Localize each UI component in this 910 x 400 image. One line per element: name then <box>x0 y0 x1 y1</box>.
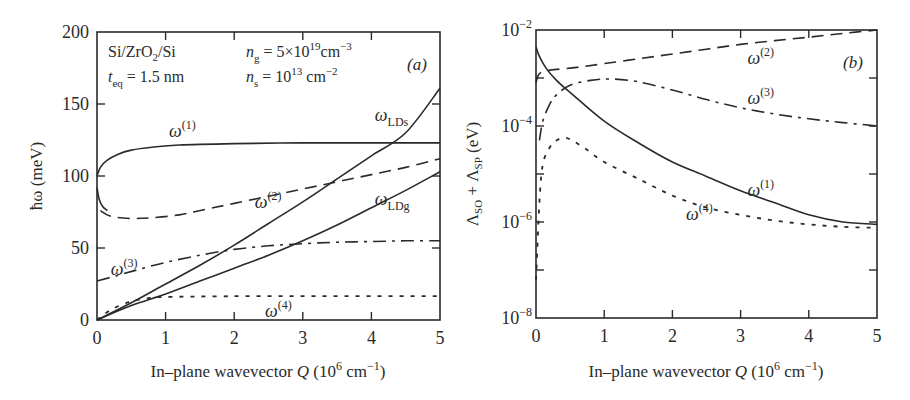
x-tick-label: 0 <box>93 328 102 348</box>
panel-a-ns: ns = 1013 cm−2 <box>246 65 338 89</box>
y-tick-label: 10−8 <box>501 305 532 328</box>
panel-b-tick-labels: 01234510−810−610−410−2 <box>501 17 881 346</box>
curve-label: ω(3) <box>747 85 774 108</box>
curve-label: ω(4) <box>265 298 292 321</box>
panel-b-label: (b) <box>843 53 863 72</box>
x-tick-label: 0 <box>532 326 541 346</box>
x-tick-label: 3 <box>736 326 745 346</box>
curve-label: ωLDg <box>375 189 410 213</box>
curve-label: ωLDs <box>375 105 409 129</box>
panel-b-curves <box>536 30 877 280</box>
curve--1- <box>536 47 877 225</box>
x-tick-label: 5 <box>436 328 445 348</box>
curve--2- <box>536 30 877 83</box>
panel-b-frame <box>536 30 877 318</box>
x-tick-label: 4 <box>804 326 813 346</box>
curve-label: ω(1) <box>169 118 196 141</box>
panel-b-x-axis-label: In–plane wavevector Q (106 cm−1) <box>588 359 823 381</box>
curve--1-lower-branch <box>97 188 107 211</box>
panel-a-teq: teq = 1.5 nm <box>108 68 185 89</box>
y-tick-label: 0 <box>80 310 89 330</box>
panel-b-plot: 01234510−810−610−410−2 ω(2)ω(3)ω(1)ω(4) … <box>463 17 882 381</box>
curve-label: ω(4) <box>686 201 713 224</box>
y-tick-label: 100 <box>62 166 89 186</box>
panel-a-ng: ng = 5×1019cm−3 <box>246 40 352 64</box>
y-tick-label: 10−6 <box>501 209 532 232</box>
x-tick-label: 1 <box>600 326 609 346</box>
x-tick-label: 2 <box>668 326 677 346</box>
x-tick-label: 3 <box>298 328 307 348</box>
curve-label: ω(2) <box>747 45 774 68</box>
y-tick-label: 10−4 <box>501 113 532 136</box>
x-tick-label: 1 <box>161 328 170 348</box>
panel-a-label: (a) <box>407 55 427 74</box>
y-tick-label: 50 <box>71 238 89 258</box>
x-tick-label: 2 <box>230 328 239 348</box>
panel-b-curve-labels: ω(2)ω(3)ω(1)ω(4) <box>686 45 774 224</box>
panel-a-plot: 012345050100150200 ω(1)ω(2)ω(3)ω(4)ωLDsω… <box>27 22 445 381</box>
panel-b-y-axis-label: ΛSO + ΛSP (eV) <box>463 122 484 226</box>
y-tick-label: 150 <box>62 94 89 114</box>
curve-label: ω(1) <box>747 177 774 200</box>
y-tick-label: 200 <box>62 22 89 42</box>
panel-a-material: Si/ZrO2/Si <box>108 43 176 63</box>
x-tick-label: 4 <box>367 328 376 348</box>
panel-a-x-axis-label: In–plane wavevector Q (106 cm−1) <box>150 359 385 381</box>
figure: 012345050100150200 ω(1)ω(2)ω(3)ω(4)ωLDsω… <box>0 0 910 400</box>
curve-label: ω(2) <box>255 189 282 212</box>
x-tick-label: 5 <box>873 326 882 346</box>
panel-b-ticks <box>536 30 877 318</box>
curve--3- <box>97 241 440 281</box>
panel-a-y-axis-label: ħω (meV) <box>27 142 46 210</box>
y-tick-label: 10−2 <box>501 17 532 40</box>
curve-label: ω(3) <box>111 256 138 279</box>
